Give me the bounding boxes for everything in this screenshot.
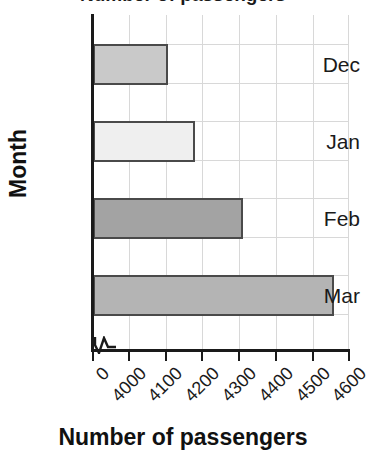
bar-chart: Number of passengers 0 [0, 0, 366, 454]
y-axis-line [91, 14, 94, 352]
x-tick [238, 352, 240, 361]
x-tick [92, 352, 94, 361]
x-tick [275, 352, 277, 361]
x-tick [312, 352, 314, 361]
x-axis-title: Number of passengers [0, 424, 366, 451]
y-tick-label-dec: Dec [280, 54, 366, 75]
bar-dec[interactable] [93, 44, 168, 85]
y-tick-label-feb: Feb [280, 208, 366, 229]
axis-break-icon [94, 336, 116, 354]
x-tick [128, 352, 130, 361]
y-tick-label-jan: Jan [280, 131, 366, 152]
x-tick [348, 352, 350, 361]
x-tick [201, 352, 203, 361]
y-tick-label-mar: Mar [280, 285, 366, 306]
bar-jan[interactable] [93, 121, 195, 162]
y-axis-title: Month [5, 99, 32, 229]
bar-feb[interactable] [93, 198, 243, 239]
chart-title: Number of passengers [0, 0, 366, 6]
x-tick [165, 352, 167, 361]
